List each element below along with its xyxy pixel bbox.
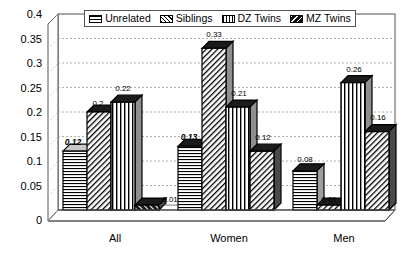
y-tick-label: 0.35 [2,34,42,45]
legend-item-unrelated: Unrelated [89,13,151,24]
bar-women-mztwins [250,144,281,210]
data-label: 0.26 [336,66,372,74]
legend-label-dz-twins: DZ Twins [238,13,282,24]
legend-item-mz-twins: MZ Twins [290,13,351,24]
y-tick-label: 0.25 [2,83,42,94]
data-label: 0.01 [311,196,347,204]
y-tick-label: 0.4 [2,9,42,20]
y-tick-label: 0 [2,215,42,226]
data-label: 0.33 [196,31,232,39]
legend-item-dz-twins: DZ Twins [222,13,282,24]
legend-swatch-mz-twins-icon [290,15,303,23]
x-category-label: Men [304,233,384,244]
data-label: 0.01 [152,196,188,204]
bar-men-mztwins [365,125,396,210]
data-label: 0.16 [360,114,396,122]
data-label: 0.08 [287,156,323,164]
data-label: 0.22 [105,85,141,93]
x-category-label: All [75,233,155,244]
data-label: 0.12 [55,138,91,147]
chart-legend: Unrelated Siblings DZ Twins MZ Twins [84,10,356,27]
y-tick-label: 0.3 [2,58,42,69]
y-tick-label: 0.15 [2,132,42,143]
legend-label-siblings: Siblings [176,13,213,24]
legend-label-mz-twins: MZ Twins [306,13,351,24]
bar-all-dztwins [111,95,142,210]
legend-swatch-siblings-icon [160,15,173,23]
legend-label-unrelated: Unrelated [105,13,151,24]
legend-item-siblings: Siblings [160,13,213,24]
data-label: 0.12 [245,134,281,142]
x-category-label: Women [189,233,269,244]
legend-swatch-unrelated-icon [89,15,102,23]
data-label: 0.21 [221,90,257,98]
y-tick-label: 0.1 [2,156,42,167]
data-label: 0.13 [171,133,207,142]
y-tick-label: 0.2 [2,107,42,118]
y-tick-label: 0.05 [2,181,42,192]
data-label: 0.2 [80,100,116,108]
legend-swatch-dz-twins-icon [222,15,235,23]
bar-chart: 0.4 0.35 0.3 0.25 0.2 0.15 0.1 0.05 0 Al… [0,0,403,257]
